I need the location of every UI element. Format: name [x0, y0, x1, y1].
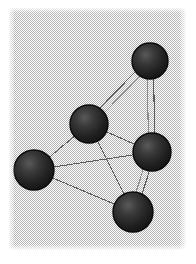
edge-n2-n5 — [97, 139, 125, 196]
edge-n1-n3 — [147, 77, 155, 135]
edge-n4-n5 — [51, 177, 117, 205]
graph-node-top-right-node[interactable] — [132, 43, 168, 79]
graph-node-far-left-node[interactable] — [14, 150, 54, 190]
edge-n4-n3 — [52, 155, 135, 168]
graph-node-right-middle-node[interactable] — [133, 133, 171, 171]
figure-root — [0, 0, 196, 264]
edge-n2-n1 — [99, 70, 142, 114]
graph-node-upper-middle-node[interactable] — [70, 105, 108, 143]
edge-n2-n3 — [105, 131, 137, 145]
edge-n2-n4 — [48, 135, 76, 159]
graph-node-bottom-node[interactable] — [113, 192, 153, 232]
node-layer — [14, 43, 171, 232]
network-graph — [0, 0, 196, 264]
edge-n3-n5 — [135, 167, 150, 196]
